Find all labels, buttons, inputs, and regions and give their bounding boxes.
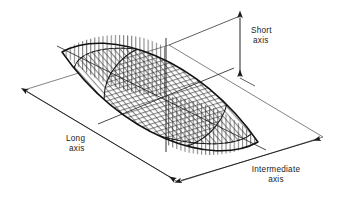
long-axis-label-line1: Long xyxy=(66,134,85,143)
intermediate-axis-label-line2: axis xyxy=(268,175,284,184)
short-axis-lower-extension xyxy=(240,78,255,86)
long-axis-label-line2: axis xyxy=(69,144,85,153)
figure-canvas: Short axis Long axis Intermediate axis xyxy=(0,0,348,200)
short-axis-label-line2: axis xyxy=(253,36,269,45)
intermediate-axis-label-line1: Intermediate xyxy=(252,165,301,174)
ellipsoid-body xyxy=(40,20,280,180)
ellipsoid-axes-figure: Short axis Long axis Intermediate axis xyxy=(0,0,348,200)
short-axis-upper-extension xyxy=(169,16,240,45)
short-axis-label-line1: Short xyxy=(251,26,272,35)
